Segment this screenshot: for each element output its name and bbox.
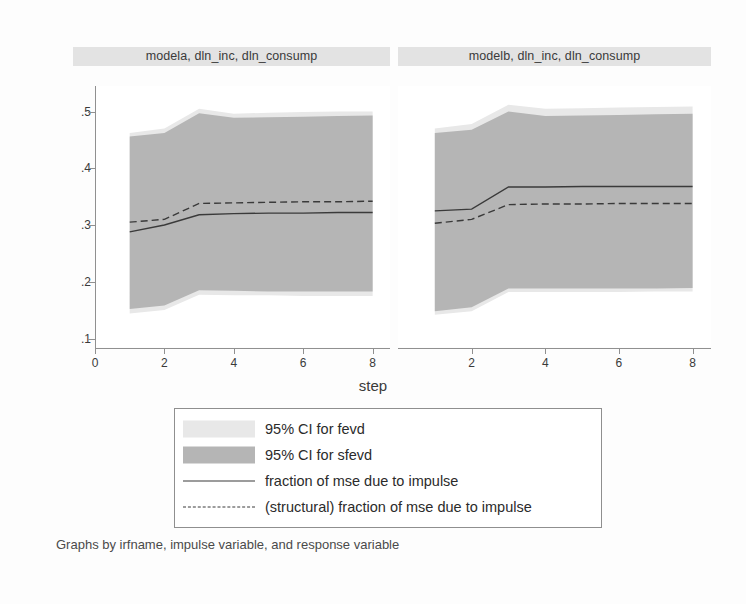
ci-band-sfevd-modela (130, 113, 373, 309)
x-tick-label: 0 (92, 356, 99, 370)
solid-line-icon (183, 481, 255, 482)
y-tick-mark (88, 339, 95, 340)
legend-label-fraction-mse: fraction of mse due to impulse (265, 473, 458, 489)
plot-area-modela (95, 86, 390, 347)
panel-title-modela: modela, dln_inc, dln_consump (73, 47, 390, 66)
x-tick-label: 4 (230, 356, 237, 370)
x-tick-mark (95, 348, 96, 354)
legend-box: 95% CI for fevd 95% CI for sfevd fractio… (174, 408, 602, 528)
x-tick-label: 2 (161, 356, 168, 370)
dashed-line-icon (183, 507, 255, 508)
legend-label-structural-fraction-mse: (structural) fraction of mse due to impu… (265, 499, 532, 515)
x-tick-mark (303, 348, 304, 354)
x-axis-title: step (0, 377, 746, 394)
legend-item-fraction-mse: fraction of mse due to impulse (175, 468, 601, 494)
swatch-light-band (183, 421, 255, 438)
y-tick-mark (88, 112, 95, 113)
plot-panel-modelb: 2468 (398, 70, 711, 366)
plot-area-modelb (398, 86, 711, 347)
x-tick-mark (234, 348, 235, 354)
x-axis-line-left (95, 348, 390, 349)
x-tick-mark (373, 348, 374, 354)
x-tick-mark (693, 348, 694, 354)
legend-item-ci-fevd: 95% CI for fevd (175, 416, 601, 442)
y-tick-mark (88, 168, 95, 169)
y-tick-mark (88, 225, 95, 226)
legend-key-ci-sfevd (183, 442, 255, 468)
x-tick-label: 2 (468, 356, 475, 370)
plot-svg-modela (95, 86, 390, 347)
legend-label-ci-fevd: 95% CI for fevd (265, 421, 365, 437)
x-tick-mark (164, 348, 165, 354)
x-tick-mark (545, 348, 546, 354)
ci-band-sfevd-modelb (435, 112, 693, 312)
legend-key-solid-line (183, 468, 255, 494)
swatch-dark-band (183, 447, 255, 464)
plot-svg-modelb (398, 86, 711, 347)
x-tick-label: 6 (300, 356, 307, 370)
legend-item-ci-sfevd: 95% CI for sfevd (175, 442, 601, 468)
x-tick-label: 4 (542, 356, 549, 370)
legend-key-ci-fevd (183, 416, 255, 442)
y-axis-line-left (95, 86, 96, 348)
legend-item-structural-fraction-mse: (structural) fraction of mse due to impu… (175, 494, 601, 520)
plot-panel-modela: .1.2.3.4.5 02468 (73, 70, 390, 366)
x-tick-mark (619, 348, 620, 354)
legend-label-ci-sfevd: 95% CI for sfevd (265, 447, 372, 463)
y-tick-mark (88, 282, 95, 283)
x-tick-label: 6 (616, 356, 623, 370)
x-tick-label: 8 (689, 356, 696, 370)
x-tick-mark (472, 348, 473, 354)
x-tick-label: 8 (369, 356, 376, 370)
panel-title-modelb: modelb, dln_inc, dln_consump (398, 47, 711, 66)
graph-caption: Graphs by irfname, impulse variable, and… (56, 537, 399, 552)
graph-canvas: modela, dln_inc, dln_consump .1.2.3.4.5 … (0, 0, 746, 604)
legend-key-dashed-line (183, 494, 255, 520)
x-axis-line-right (398, 348, 711, 349)
